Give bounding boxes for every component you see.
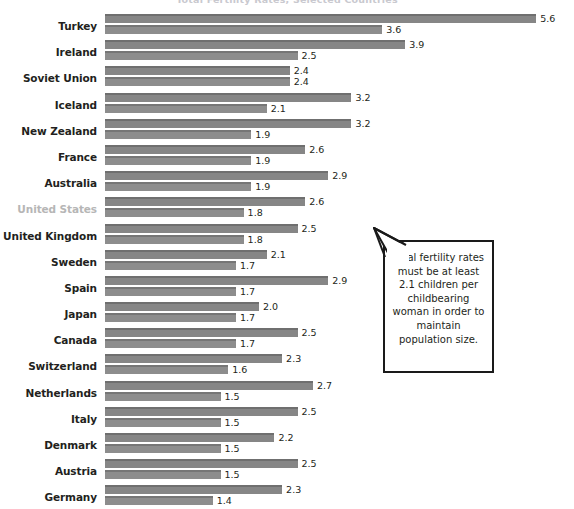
bar-line: 1.5 [105, 392, 574, 401]
callout-pointer-icon [373, 227, 409, 261]
bar-value-label: 1.5 [225, 469, 240, 480]
chart-row: Australia2.91.9 [0, 171, 574, 197]
row-label-united-states: United States [0, 197, 97, 221]
bar-later [105, 313, 236, 322]
bar-value-label: 2.3 [286, 353, 301, 364]
bar-value-label: 2.5 [302, 458, 317, 469]
bar-value-label: 2.1 [271, 103, 286, 114]
row-label-turkey: Turkey [0, 14, 97, 38]
row-label-iceland: Iceland [0, 93, 97, 117]
bar-later [105, 365, 228, 374]
bar-earlier [105, 171, 328, 180]
bar-line: 2.7 [105, 381, 574, 390]
chart-row: Italy2.51.5 [0, 407, 574, 433]
bar-value-label: 2.9 [332, 170, 347, 181]
chart-row: Germany2.31.4 [0, 485, 574, 509]
bar-earlier [105, 40, 405, 49]
bar-value-label: 1.7 [240, 286, 255, 297]
chart-row: Netherlands2.71.5 [0, 381, 574, 407]
bar-line: 1.9 [105, 156, 574, 165]
bar-line: 1.6 [105, 365, 574, 374]
row-label-spain: Spain [0, 276, 97, 300]
bar-line: 1.8 [105, 208, 574, 217]
bar-line: 2.9 [105, 276, 574, 285]
bar-later [105, 470, 221, 479]
bar-value-label: 2.6 [309, 196, 324, 207]
bar-line: 2.3 [105, 354, 574, 363]
bar-value-label: 2.2 [278, 432, 293, 443]
bar-value-label: 3.6 [386, 24, 401, 35]
bar-line: 1.7 [105, 339, 574, 348]
bar-value-label: 1.8 [248, 234, 263, 245]
chart-row: Austria2.51.5 [0, 459, 574, 485]
bar-later [105, 156, 251, 165]
bar-line: 2.5 [105, 224, 574, 233]
bar-value-label: 1.5 [225, 417, 240, 428]
chart-row: Ireland3.92.5 [0, 40, 574, 66]
bar-line: 2.6 [105, 197, 574, 206]
bar-later [105, 25, 382, 34]
bar-line: 2.9 [105, 171, 574, 180]
bar-value-label: 2.4 [294, 65, 309, 76]
row-bars: 2.71.5 [105, 381, 574, 405]
row-label-denmark: Denmark [0, 433, 97, 457]
bar-value-label: 1.7 [240, 338, 255, 349]
row-bars: 5.63.6 [105, 14, 574, 38]
bar-later [105, 496, 213, 505]
bar-later [105, 392, 221, 401]
bar-value-label: 1.7 [240, 260, 255, 271]
row-label-soviet-union: Soviet Union [0, 66, 97, 90]
bar-value-label: 2.5 [302, 50, 317, 61]
bar-line: 1.4 [105, 496, 574, 505]
row-bars: 2.91.9 [105, 171, 574, 195]
bar-value-label: 2.0 [263, 301, 278, 312]
bar-line: 1.9 [105, 182, 574, 191]
chart-row: Denmark2.21.5 [0, 433, 574, 459]
bar-value-label: 1.4 [217, 495, 232, 506]
bar-value-label: 1.9 [255, 181, 270, 192]
bar-line: 5.6 [105, 14, 574, 23]
bar-line: 2.0 [105, 302, 574, 311]
bar-value-label: 2.5 [302, 223, 317, 234]
bar-earlier [105, 66, 290, 75]
bar-line: 1.5 [105, 444, 574, 453]
bar-earlier [105, 381, 313, 390]
bar-later [105, 208, 244, 217]
bar-value-label: 1.6 [232, 364, 247, 375]
bar-line: 2.4 [105, 66, 574, 75]
bar-earlier [105, 119, 351, 128]
bar-later [105, 235, 244, 244]
bar-value-label: 2.9 [332, 275, 347, 286]
bar-value-label: 1.5 [225, 443, 240, 454]
bar-line: 3.6 [105, 25, 574, 34]
bar-earlier [105, 276, 328, 285]
bar-line: 2.5 [105, 328, 574, 337]
row-bars: 2.51.7 [105, 328, 574, 352]
chart-title: Total Fertility Rates, Selected Countrie… [0, 0, 574, 5]
bar-later [105, 261, 236, 270]
bar-line: 1.5 [105, 418, 574, 427]
bar-value-label: 3.9 [409, 39, 424, 50]
row-bars: 2.42.4 [105, 66, 574, 90]
bar-later [105, 130, 251, 139]
row-bars: 2.01.7 [105, 302, 574, 326]
row-label-canada: Canada [0, 328, 97, 352]
bar-value-label: 2.6 [309, 144, 324, 155]
bar-earlier [105, 197, 305, 206]
chart-row: Soviet Union2.42.4 [0, 66, 574, 92]
chart-row: New Zealand3.21.9 [0, 119, 574, 145]
bar-later [105, 77, 290, 86]
row-label-italy: Italy [0, 407, 97, 431]
row-bars: 2.51.5 [105, 407, 574, 431]
bar-line: 1.7 [105, 313, 574, 322]
row-label-netherlands: Netherlands [0, 381, 97, 405]
bar-earlier [105, 328, 298, 337]
bar-line: 2.4 [105, 77, 574, 86]
row-bars: 3.21.9 [105, 119, 574, 143]
row-label-sweden: Sweden [0, 250, 97, 274]
bar-earlier [105, 433, 274, 442]
row-bars: 2.31.6 [105, 354, 574, 378]
row-label-united-kingdom: United Kingdom [0, 224, 97, 248]
bar-value-label: 1.7 [240, 312, 255, 323]
